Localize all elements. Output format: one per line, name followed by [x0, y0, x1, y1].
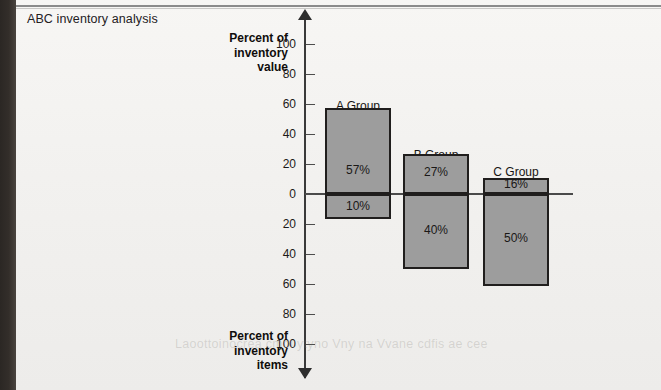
- axis-caption-inventory-value: Percent of inventory value: [168, 31, 288, 75]
- axis-arrow-up-icon: [298, 9, 312, 20]
- axis-caption-line: Percent of: [168, 329, 288, 344]
- tick-mark: [306, 44, 315, 45]
- tick-mark: [306, 74, 315, 75]
- tick-mark: [306, 104, 315, 105]
- bar-b-value-label: 27%: [403, 165, 469, 179]
- tick-label-80-dn: 80: [256, 307, 296, 321]
- bar-c-items-label: 50%: [483, 231, 549, 245]
- bar-c-value-label: 16%: [483, 177, 549, 191]
- tick-mark: [306, 164, 315, 165]
- tick-mark: [306, 224, 315, 225]
- bar-b-items-label: 40%: [403, 223, 469, 237]
- tick-label-40-dn: 40: [256, 247, 296, 261]
- tick-mark: [306, 194, 315, 195]
- axis-caption-line: value: [168, 60, 288, 75]
- abc-inventory-chart: 100 80 60 40 20 0 20 40 60 80 100 Percen…: [0, 0, 661, 390]
- tick-label-20-up: 20: [256, 157, 296, 171]
- tick-mark: [306, 134, 315, 135]
- axis-caption-line: inventory: [168, 344, 288, 359]
- tick-mark: [306, 344, 315, 345]
- tick-mark: [306, 314, 315, 315]
- axis-caption-line: Percent of: [168, 31, 288, 46]
- tick-label-60-dn: 60: [256, 277, 296, 291]
- axis-caption-line: items: [168, 358, 288, 373]
- vertical-axis: [304, 17, 306, 378]
- axis-caption-inventory-items: Percent of inventory items: [168, 329, 288, 373]
- bar-a-value[interactable]: [325, 108, 391, 194]
- tick-mark: [306, 284, 315, 285]
- tick-label-20-dn: 20: [256, 217, 296, 231]
- bar-a-value-label: 57%: [325, 163, 391, 177]
- tick-label-40-up: 40: [256, 127, 296, 141]
- tick-mark: [306, 254, 315, 255]
- axis-caption-line: inventory: [168, 46, 288, 61]
- bar-a-items-label: 10%: [325, 199, 391, 213]
- axis-arrow-down-icon: [298, 368, 312, 379]
- tick-label-60-up: 60: [256, 97, 296, 111]
- tick-label-zero: 0: [256, 187, 296, 201]
